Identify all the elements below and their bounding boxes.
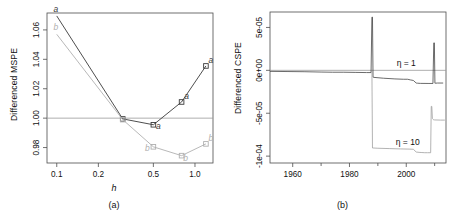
panel-a-caption: (a)	[0, 200, 228, 210]
panel-a-point-label-b: b	[53, 22, 58, 32]
panel-b-y-tick-label: -5e-05	[255, 101, 264, 125]
panel-a-point-label-a: a	[209, 55, 214, 65]
panel-a-series-a-line	[57, 16, 206, 125]
plot-b-canvas: -1e-04-5e-050e+005e-05196019802000η = 1η…	[228, 0, 457, 223]
panel-a-x-tick-label: 0.1	[51, 170, 63, 179]
panel-b-caption: (b)	[228, 200, 457, 210]
panel-b-y-tick-label: 0e+00	[255, 58, 264, 81]
panel-a-point-label-a: a	[156, 121, 161, 131]
panel-a-y-tick-label: 1.06	[32, 21, 41, 37]
panel-b-y-axis-label: Differenced CSPE	[233, 42, 243, 114]
panel-a-x-tick-label: 1.0	[189, 170, 201, 179]
panel-b-y-tick-label: -1e-04	[255, 144, 264, 168]
panel-a-point-label-b: b	[145, 143, 150, 153]
panel-a-y-tick-label: 0.98	[32, 139, 41, 155]
panel-a-x-axis-label: h	[0, 183, 228, 193]
panel-b: -1e-04-5e-050e+005e-05196019802000η = 1η…	[228, 0, 457, 223]
panel-b-x-tick-label: 1980	[340, 170, 359, 179]
panel-a-point-label-a: a	[184, 91, 189, 101]
panel-a-y-axis-label: Differenced MSPE	[9, 48, 19, 121]
panel-a-point-label-a: a	[53, 4, 58, 14]
panel-a-y-tick-label: 1.02	[32, 80, 41, 96]
panel-a-x-tick-label: 0.5	[148, 170, 160, 179]
panel-b-x-tick-label: 2000	[397, 170, 416, 179]
panel-b-series-eta1-line	[270, 17, 443, 83]
panel-b-annotation-1: η = 10	[396, 137, 420, 147]
panel-a-y-tick-label: 1.04	[32, 51, 41, 67]
panel-a-point-label-b: b	[183, 153, 188, 163]
panel-a-y-tick-label: 1.00	[32, 110, 41, 126]
panel-a-plot-frame	[47, 13, 213, 163]
panel-a-x-tick-label: 0.2	[93, 170, 105, 179]
figure-container: 0.981.001.021.041.060.10.20.51.0aaaabbbb…	[0, 0, 457, 223]
panel-b-y-tick-label: 5e-05	[255, 17, 264, 38]
panel-b-annotation-0: η = 1	[397, 58, 416, 68]
panel-a-point-label-b: b	[209, 133, 214, 143]
panel-a: 0.981.001.021.041.060.10.20.51.0aaaabbbb…	[0, 0, 228, 223]
panel-b-x-tick-label: 1960	[284, 170, 303, 179]
